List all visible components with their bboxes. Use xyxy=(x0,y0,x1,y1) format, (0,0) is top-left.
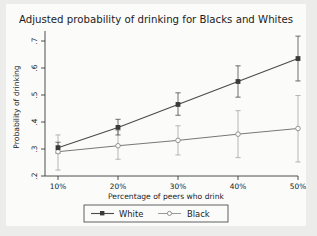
y-axis-ticks: .2 .3 .4 .5 .6 .7 xyxy=(30,37,45,179)
data-point-marker xyxy=(296,126,301,131)
x-axis-ticks: 10% 20% 30% 40% 50% xyxy=(50,176,306,191)
y-tick-label: .5 xyxy=(30,91,39,98)
x-tick-label: 20% xyxy=(110,182,126,191)
data-point-marker xyxy=(116,143,121,148)
x-tick-label: 30% xyxy=(170,182,186,191)
legend-white-marker-icon xyxy=(100,211,104,215)
x-tick-label: 50% xyxy=(290,182,306,191)
x-axis-label: Percentage of peers who drink xyxy=(108,192,224,201)
data-point-marker xyxy=(236,79,241,84)
x-tick-label: 40% xyxy=(230,182,246,191)
data-point-marker xyxy=(56,149,61,154)
data-point-marker xyxy=(56,145,61,150)
data-point-marker xyxy=(296,56,301,61)
legend-black-marker-icon xyxy=(167,211,171,215)
chart-title: Adjusted probability of drinking for Bla… xyxy=(19,14,293,25)
y-axis-label: Probability of drinking xyxy=(12,65,21,148)
chart-legend: White Black xyxy=(84,205,228,222)
chart-screenshot: Adjusted probability of drinking for Bla… xyxy=(0,0,317,236)
y-tick-label: .7 xyxy=(30,37,39,44)
data-point-marker xyxy=(176,102,181,107)
data-point-marker xyxy=(116,125,121,130)
data-point-marker xyxy=(176,138,181,143)
drinking-probability-line-chart: Adjusted probability of drinking for Bla… xyxy=(6,4,306,226)
y-tick-label: .3 xyxy=(30,145,39,152)
data-point-marker xyxy=(236,132,241,137)
y-tick-label: .4 xyxy=(30,118,39,125)
y-tick-label: .2 xyxy=(30,172,39,179)
legend-label-white[interactable]: White xyxy=(119,209,143,219)
plot-card: Adjusted probability of drinking for Bla… xyxy=(6,4,306,226)
legend-label-black[interactable]: Black xyxy=(187,209,210,219)
x-tick-label: 10% xyxy=(50,182,66,191)
y-tick-label: .6 xyxy=(30,64,39,71)
